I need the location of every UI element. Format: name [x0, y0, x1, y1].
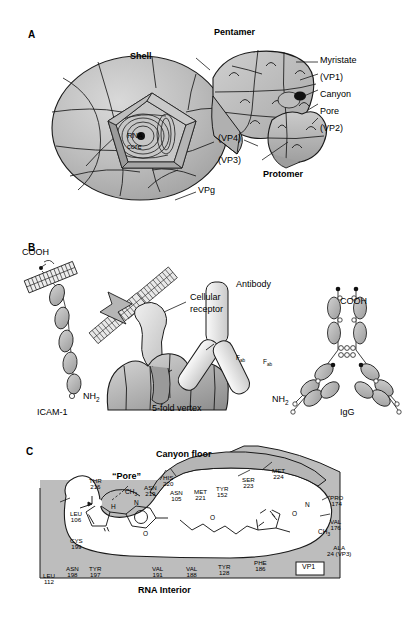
- label-shell: Shell: [130, 52, 152, 61]
- label-cellular-receptor-2: receptor: [190, 305, 223, 314]
- residue-num: 198: [67, 571, 77, 578]
- residue-num: 174: [332, 500, 342, 507]
- label-vpg: VPg: [198, 186, 215, 195]
- label-nh2-icam: NH2: [83, 392, 100, 404]
- residue-num: 199: [71, 543, 81, 550]
- nh2-icam-text: NH: [83, 391, 96, 401]
- atom-text: CH: [125, 488, 134, 495]
- atom-text: CH: [318, 528, 327, 535]
- residue-num: 186: [255, 565, 265, 572]
- label-pore: “Pore”: [112, 472, 141, 481]
- nh2-icam-sub: 2: [96, 396, 100, 403]
- label-myristate: Myristate: [320, 56, 357, 65]
- atom-ch3-left: CH3: [125, 489, 137, 498]
- panel-c-graphic: [0, 440, 404, 615]
- residue-num: 188: [186, 571, 196, 578]
- atom-o-oxazoline: O: [143, 531, 148, 538]
- atom-ch3-right: CH3: [318, 529, 330, 538]
- label-rna: RNA: [127, 132, 143, 140]
- figure-root: A: [0, 0, 404, 617]
- residue-num: 24 (VP3): [327, 550, 351, 557]
- residue-asn-105: ASN 105: [170, 490, 183, 502]
- residue-val-176: VAL 176: [330, 519, 341, 531]
- residue-num: 197: [90, 571, 100, 578]
- residue-leu-112: LEU 112: [43, 573, 55, 585]
- icam1-molecule: [24, 260, 81, 398]
- residue-num: 112: [44, 578, 54, 585]
- residue-tyr-152: TYR 152: [216, 486, 228, 498]
- panel-b-leaders: [164, 302, 186, 312]
- residue-val-188: VAL 188: [186, 566, 197, 578]
- residue-num: 152: [217, 491, 227, 498]
- residue-num: 219: [145, 490, 155, 497]
- residue-tyr-128: TYR 128: [218, 564, 230, 576]
- residue-leu-106: LEU 106: [70, 511, 82, 523]
- atom-n-isoxazole: N: [305, 502, 310, 509]
- residue-met-224: MET 224: [272, 468, 285, 480]
- fab-right-sub: ab: [267, 362, 272, 367]
- label-antibody: Antibody: [236, 280, 271, 289]
- atom-o-ether: O: [210, 515, 215, 522]
- cellular-receptor: [89, 267, 177, 368]
- residue-met-221: MET 221: [194, 489, 207, 501]
- residue-num: 176: [330, 524, 340, 531]
- nh2-igg-sub: 2: [285, 399, 289, 406]
- label-core: core: [127, 143, 142, 151]
- residue-num: 221: [195, 494, 205, 501]
- residue-thr-216: THR 216: [89, 478, 102, 490]
- residue-ser-223: SER 223: [242, 477, 255, 489]
- label-protomer: Protomer: [263, 170, 303, 179]
- residue-asn-198: ASN 198: [66, 566, 79, 578]
- residue-num: 224: [273, 473, 283, 480]
- residue-tyr-197: TYR 197: [89, 566, 101, 578]
- atom-h-left: H: [111, 504, 116, 511]
- residue-pro-174: PRO 174: [330, 495, 343, 507]
- panel-b-graphic: [0, 238, 404, 423]
- label-vp4: (VP4): [218, 134, 241, 143]
- label-nh2-igg: NH2: [272, 395, 289, 407]
- residue-num: 220: [163, 480, 173, 487]
- fab-left-sub: ab: [240, 358, 245, 363]
- label-canyon-floor: Canyon floor: [156, 450, 212, 459]
- atom-sub: 3: [327, 532, 330, 537]
- residue-val-191: VAL 191: [152, 566, 163, 578]
- label-fab-left: Fab: [236, 355, 245, 364]
- label-vp2: (VP2): [320, 124, 343, 133]
- label-fab-right: Fab: [263, 359, 272, 368]
- label-cooh-igg: COOH: [340, 297, 367, 306]
- atom-n-oxazoline: N: [134, 500, 139, 507]
- label-igg: IgG: [340, 408, 355, 417]
- nh2-igg-text: NH: [272, 394, 285, 404]
- atom-sub: 3: [134, 492, 137, 497]
- label-pore: Pore: [320, 107, 339, 116]
- residue-asn-219: ASN 219: [144, 485, 157, 497]
- label-pentamer: Pentamer: [214, 28, 255, 37]
- label-canyon: Canyon: [320, 90, 351, 99]
- label-vp1-box-text: VP1: [302, 563, 315, 570]
- label-5fold-vertex: 5-fold vertex: [152, 404, 202, 413]
- label-cellular-receptor-1: Cellular: [190, 293, 221, 302]
- label-vp1: (VP1): [320, 73, 343, 82]
- residue-num: 223: [243, 482, 253, 489]
- label-cooh-icam: COOH: [22, 248, 49, 257]
- residue-num: 128: [219, 569, 229, 576]
- residue-num: 191: [152, 571, 162, 578]
- residue-his-220: HIS 220: [163, 475, 173, 487]
- label-icam1: ICAM-1: [37, 408, 68, 417]
- residue-ala-24-vp3: ALA 24 (VP3): [327, 545, 351, 557]
- residue-num: 106: [71, 516, 81, 523]
- residue-num: 105: [171, 495, 181, 502]
- residue-cys-199: CYS 199: [70, 538, 83, 550]
- residue-phe-186: PHE 186: [254, 560, 267, 572]
- atom-o-isoxazole: O: [292, 511, 297, 518]
- label-rna-interior: RNA Interior: [138, 586, 191, 595]
- label-vp3: (VP3): [218, 156, 241, 165]
- residue-num: 216: [90, 483, 100, 490]
